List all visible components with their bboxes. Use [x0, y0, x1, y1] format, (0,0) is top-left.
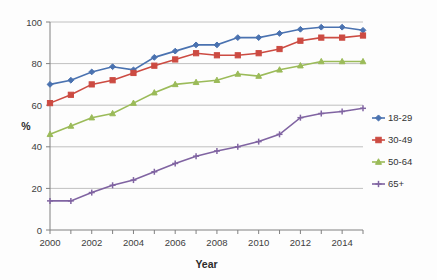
legend-item-18-29[interactable]: 18-29 [372, 112, 412, 123]
y-tick-label: 40 [31, 141, 42, 152]
x-tick-label: 2004 [123, 237, 144, 248]
y-tick-label: 20 [31, 183, 42, 194]
legend-label: 50-64 [388, 156, 412, 167]
series-line [50, 27, 363, 84]
y-tick-label: 0 [37, 225, 42, 236]
data-point-marker [360, 27, 366, 33]
data-point-marker [68, 77, 74, 83]
gridlines [50, 22, 363, 188]
data-point-marker [193, 42, 199, 48]
x-tick-label: 2010 [248, 237, 269, 248]
data-point-marker [298, 38, 303, 43]
data-point-marker [277, 31, 283, 37]
series-line [50, 62, 363, 135]
legend-label: 30-49 [388, 134, 412, 145]
legend-item-65+[interactable]: 65+ [372, 178, 405, 189]
data-point-marker [235, 35, 241, 41]
x-tick-label: 2002 [81, 237, 102, 248]
line-chart: 020406080100 200020022004200620082010201… [0, 0, 437, 280]
series-18-29 [47, 24, 366, 87]
legend-item-50-64[interactable]: 50-64 [372, 156, 412, 167]
x-tick-label: 2008 [206, 237, 227, 248]
data-point-marker [47, 82, 53, 88]
data-point-marker [68, 92, 73, 97]
x-tick-labels: 20002002200420062008201020122014 [39, 237, 352, 248]
data-point-marker [298, 26, 304, 32]
data-point-marker [214, 53, 219, 58]
data-series [47, 24, 366, 204]
y-tick-label: 80 [31, 58, 42, 69]
series-30-49 [47, 33, 365, 106]
y-tick-label: 100 [26, 17, 42, 28]
data-point-marker [89, 69, 95, 75]
data-point-marker [131, 70, 136, 75]
legend: 18-2930-4950-6465+ [372, 112, 412, 189]
data-point-marker [360, 33, 365, 38]
series-line [50, 108, 363, 201]
data-point-marker [110, 78, 115, 83]
data-point-marker [375, 115, 381, 121]
x-tick-label: 2014 [332, 237, 353, 248]
data-point-marker [277, 46, 282, 51]
data-point-marker [235, 53, 240, 58]
data-point-marker [319, 35, 324, 40]
x-tick-label: 2000 [39, 237, 60, 248]
data-point-marker [47, 101, 52, 106]
data-point-marker [318, 24, 324, 30]
data-point-marker [339, 24, 345, 30]
data-point-marker [193, 51, 198, 56]
x-axis-title: Year [195, 258, 217, 270]
data-point-marker [214, 42, 220, 48]
series-50-64 [47, 58, 366, 136]
data-point-marker [340, 35, 345, 40]
data-point-marker [256, 51, 261, 56]
data-point-marker [256, 35, 262, 41]
chart-canvas: 020406080100 200020022004200620082010201… [0, 0, 437, 280]
data-point-marker [110, 64, 116, 70]
legend-label: 18-29 [388, 112, 412, 123]
x-tick-label: 2012 [290, 237, 311, 248]
data-point-marker [152, 63, 157, 68]
data-point-marker [376, 137, 381, 142]
data-point-marker [173, 57, 178, 62]
legend-item-30-49[interactable]: 30-49 [372, 134, 412, 145]
y-tick-label: 60 [31, 100, 42, 111]
x-tick-label: 2006 [165, 237, 186, 248]
legend-label: 65+ [388, 178, 405, 189]
data-point-marker [89, 82, 94, 87]
data-point-marker [172, 48, 178, 54]
y-axis-title: % [21, 120, 31, 132]
